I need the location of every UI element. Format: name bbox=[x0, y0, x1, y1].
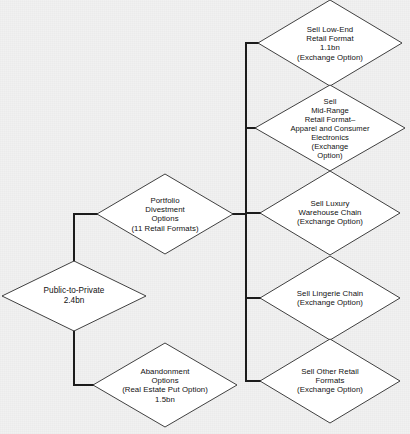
node-shape-sell-other-retail-formats[interactable] bbox=[260, 339, 400, 423]
node-shape-abandonment-options[interactable] bbox=[93, 343, 237, 427]
node-shape-sell-low-end-retail-format[interactable] bbox=[258, 0, 402, 86]
node-shape-portfolio-divestment-options[interactable] bbox=[97, 174, 233, 254]
node-shape-sell-mid-range-retail-format[interactable] bbox=[255, 85, 405, 171]
node-shape-public-to-private[interactable] bbox=[2, 261, 146, 331]
connector-ptp-to-abandonment bbox=[74, 331, 93, 385]
flowchart-svg bbox=[0, 0, 410, 434]
nodes-layer bbox=[2, 0, 405, 427]
node-shape-sell-luxury-warehouse-chain[interactable] bbox=[260, 171, 400, 255]
diagram-canvas: Public-to-Private 2.4bnPortfolio Divestm… bbox=[0, 0, 410, 434]
connector-ptp-to-portfolio bbox=[74, 214, 97, 261]
node-shape-sell-lingerie-chain[interactable] bbox=[260, 256, 400, 340]
